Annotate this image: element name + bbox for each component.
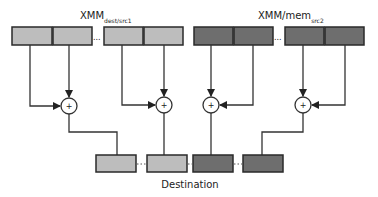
svg-text:+: + [66,102,73,111]
src1-subscript: dest/src1 [104,17,132,24]
src2-ellipsis: ... [274,33,282,42]
dest-element-1 [147,155,187,172]
dest-element-2 [193,155,233,172]
adder-1: + [156,97,172,113]
src1-element-1 [53,27,92,45]
src1-element-2 [104,27,143,45]
adder-0: + [61,98,77,114]
src2-element-0 [194,27,233,45]
adder-3: + [295,97,311,113]
src1-label: XMMdest/src1 [80,10,132,24]
horizontal-add-diagram: XMMdest/src1 XMM/memsrc2 ... ... [0,0,378,197]
src1-element-3 [144,27,183,45]
dest-element-3 [243,155,283,172]
src2-label: XMM/memsrc2 [258,10,324,24]
svg-text:+: + [161,101,168,110]
svg-text:+: + [300,101,307,110]
src1-ellipsis: ... [93,33,101,42]
src2-element-2 [285,27,324,45]
src1-element-0 [12,27,52,45]
dest-element-0 [96,155,136,172]
svg-text:+: + [208,101,215,110]
adder-2: + [203,97,219,113]
src2-element-1 [234,27,273,45]
destination-label: Destination [161,179,218,190]
src2-element-3 [325,27,364,45]
src2-subscript: src2 [311,17,324,24]
